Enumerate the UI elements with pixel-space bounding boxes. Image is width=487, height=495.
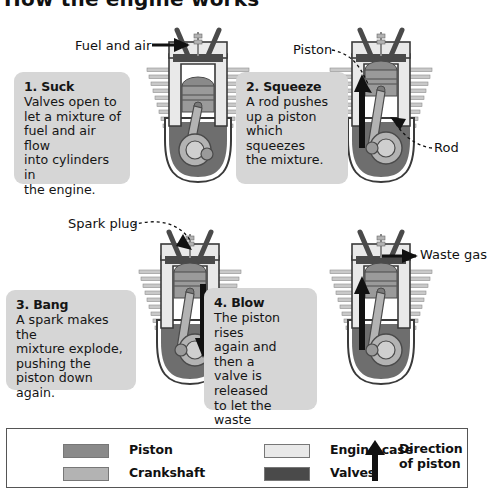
page-title: How the engine works [4, 0, 259, 11]
step-body-squeeze: A rod pushes up a piston which squeezes … [246, 95, 339, 168]
legend-swatch-piston [63, 444, 109, 458]
engine-diagram-blow [330, 232, 432, 384]
step-box-suck: 1. Suck Valves open to let a mixture of … [14, 72, 130, 184]
legend-panel: Piston Crankshaft Engine case Valves Dir… [6, 428, 468, 488]
legend-swatch-engine-case [264, 444, 310, 458]
step-body-suck: Valves open to let a mixture of fuel and… [24, 95, 121, 197]
step-heading-squeeze: 2. Squeeze [246, 80, 339, 94]
legend-swatch-valves [264, 467, 310, 481]
legend-label-direction-of-piston: Direction of piston [399, 441, 463, 471]
legend-label-crankshaft: Crankshaft [129, 465, 205, 480]
leader-spark-plug [133, 222, 192, 250]
step-body-bang: A spark makes the mixture explode, pushi… [16, 313, 127, 401]
callout-label-spark-plug: Spark plug [68, 216, 138, 231]
callout-label-rod: Rod [434, 140, 459, 155]
piston-direction-arrow-up [354, 74, 370, 148]
engine-diagram-suck [147, 30, 249, 182]
callout-label-waste-gas: Waste gas [420, 247, 487, 262]
callout-label-fuel-and-air: Fuel and air [75, 38, 151, 53]
step-heading-suck: 1. Suck [24, 80, 121, 94]
step-box-bang: 3. Bang A spark makes the mixture explod… [6, 290, 136, 390]
legend-swatch-crankshaft [63, 467, 109, 481]
up-arrow-icon [362, 439, 388, 483]
step-heading-blow: 4. Blow [214, 296, 308, 310]
step-heading-bang: 3. Bang [16, 298, 127, 312]
legend-label-piston: Piston [129, 442, 173, 457]
step-box-blow: 4. Blow The piston rises again and then … [204, 288, 317, 410]
step-box-squeeze: 2. Squeeze A rod pushes up a piston whic… [236, 72, 348, 184]
leader-rod [390, 117, 432, 148]
callout-label-piston: Piston [293, 42, 332, 57]
piston-direction-arrow-up-2 [354, 276, 370, 350]
